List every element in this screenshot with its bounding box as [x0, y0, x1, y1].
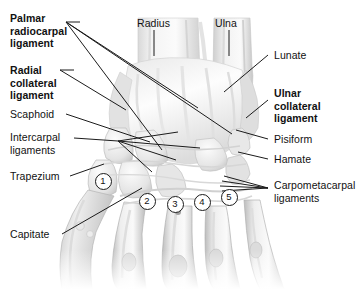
marker-5: 5	[221, 189, 238, 206]
label-ulnar-collateral-ligament: Ulnar collateral ligament	[274, 87, 321, 125]
label-palmar-radiocarpal-ligament: Palmar radiocarpal ligament	[10, 12, 67, 50]
label-capitate: Capitate	[10, 228, 50, 241]
marker-2: 2	[139, 193, 156, 210]
label-trapezium: Trapezium	[10, 170, 60, 183]
label-radial-collateral-ligament: Radial collateral ligament	[10, 64, 57, 102]
label-lunate: Lunate	[274, 49, 306, 62]
label-carpometacarpal-ligaments: Carpometacarpal ligaments	[274, 179, 356, 204]
label-pisiform: Pisiform	[274, 133, 312, 146]
label-radius: Radius	[137, 17, 170, 30]
label-intercarpal-ligaments: Intercarpal ligaments	[10, 131, 60, 156]
label-hamate: Hamate	[274, 153, 311, 166]
label-ulna: Ulna	[215, 17, 237, 30]
figure-canvas: Palmar radiocarpal ligament Radial colla…	[0, 0, 357, 289]
marker-1: 1	[95, 173, 112, 190]
marker-3: 3	[167, 196, 184, 213]
label-scaphoid: Scaphoid	[10, 108, 54, 121]
marker-4: 4	[194, 194, 211, 211]
